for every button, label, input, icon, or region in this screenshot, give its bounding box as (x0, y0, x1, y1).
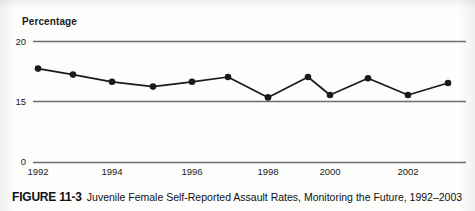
y-tick-label-20: 20 (4, 36, 26, 47)
figure-caption: FIGURE 11-3Juvenile Female Self-Reported… (12, 190, 474, 204)
figure-container: Percentage 20 15 0 1992 1994 1996 (0, 0, 475, 211)
data-point-2000 (327, 92, 334, 99)
line-chart-plot (0, 0, 475, 190)
data-point-1992 (35, 65, 42, 72)
figure-number: FIGURE 11-3 (12, 190, 82, 204)
x-tick-label-2002: 2002 (388, 166, 428, 177)
data-point-2002 (405, 92, 412, 99)
x-tick-label-1998: 1998 (248, 166, 288, 177)
series-line (38, 69, 448, 98)
data-point-2003 (445, 80, 452, 87)
data-series-assault-rate (35, 65, 452, 100)
data-point-1995 (150, 83, 157, 90)
x-tick-label-1994: 1994 (92, 166, 132, 177)
data-point-2001 (365, 75, 372, 82)
data-point-1997 (225, 74, 232, 81)
y-tick-label-15: 15 (4, 96, 26, 107)
x-tick-label-1992: 1992 (18, 166, 58, 177)
data-point-1996 (189, 79, 196, 86)
x-tick-label-2000: 2000 (310, 166, 350, 177)
x-tick-label-1996: 1996 (172, 166, 212, 177)
data-point-1999 (305, 74, 312, 81)
data-point-1994 (109, 79, 116, 86)
gridlines (33, 42, 466, 163)
data-point-1993 (70, 71, 77, 78)
data-point-1998 (265, 94, 272, 101)
figure-caption-text: Juvenile Female Self-Reported Assault Ra… (87, 191, 462, 203)
